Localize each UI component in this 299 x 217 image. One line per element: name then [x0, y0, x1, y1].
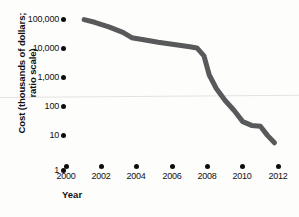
- tick-dot-icon: [61, 75, 66, 80]
- tick-dot-icon: [276, 164, 281, 169]
- x-tick-label: 2012: [261, 171, 295, 181]
- x-tick-2010: 2010: [225, 163, 259, 181]
- tick-dot-icon: [99, 164, 104, 169]
- x-tick-label: 2006: [155, 171, 189, 181]
- x-tick-label: 2008: [190, 171, 224, 181]
- y-tick-10000: 10,000: [4, 42, 66, 54]
- y-tick-label: 100: [45, 101, 59, 111]
- y-tick-100: 100: [4, 100, 66, 112]
- scan-artifact-line: [0, 95, 299, 98]
- x-tick-label: 2000: [49, 171, 83, 181]
- cost-line-series: [84, 20, 274, 143]
- x-tick-label: 2010: [225, 171, 259, 181]
- tick-dot-icon: [61, 46, 66, 51]
- tick-dot-icon: [205, 164, 210, 169]
- x-tick-2004: 2004: [119, 163, 153, 181]
- y-tick-1000: 1,000: [4, 71, 66, 83]
- tick-dot-icon: [61, 17, 66, 22]
- x-tick-2012: 2012: [261, 163, 295, 181]
- tick-dot-icon: [61, 104, 66, 109]
- x-tick-2008: 2008: [190, 163, 224, 181]
- y-tick-10: 10: [4, 129, 66, 141]
- y-tick-100000: 100,000: [4, 13, 66, 25]
- y-tick-label: 1,000: [37, 72, 59, 82]
- x-tick-2006: 2006: [155, 163, 189, 181]
- x-tick-label: 2004: [119, 171, 153, 181]
- x-tick-label: 2002: [84, 171, 118, 181]
- x-tick-2002: 2002: [84, 163, 118, 181]
- y-tick-label: 10: [49, 130, 59, 140]
- y-tick-label: 10,000: [33, 43, 59, 53]
- tick-dot-icon: [64, 164, 69, 169]
- tick-dot-icon: [170, 164, 175, 169]
- x-tick-2000: 2000: [49, 163, 83, 181]
- chart-container: Cost (thousands of dollars; ratio scale)…: [0, 0, 299, 217]
- tick-dot-icon: [134, 164, 139, 169]
- tick-dot-icon: [240, 164, 245, 169]
- tick-dot-icon: [61, 133, 66, 138]
- y-tick-label: 100,000: [28, 14, 59, 24]
- x-axis-title: Year: [62, 189, 82, 200]
